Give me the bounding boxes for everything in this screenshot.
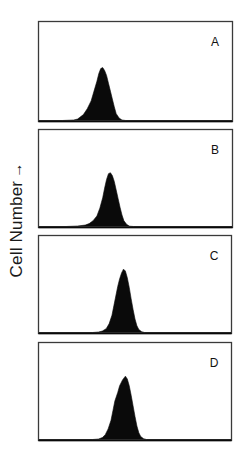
panel-label-a: A bbox=[211, 35, 219, 49]
panel-label-b: B bbox=[211, 143, 219, 157]
histogram-figure: Cell Number→ ABCD bbox=[0, 0, 251, 453]
histogram-panel-c: C bbox=[39, 236, 232, 334]
histogram-panel-a: A bbox=[39, 22, 233, 122]
histogram-panel-b: B bbox=[39, 130, 233, 228]
panel-label-d: D bbox=[210, 356, 219, 370]
histogram-panel-d: D bbox=[39, 343, 232, 441]
panel-label-c: C bbox=[210, 249, 219, 263]
panel-frame bbox=[39, 130, 233, 228]
histogram-panels: ABCD bbox=[0, 0, 251, 453]
panel-frame bbox=[39, 22, 233, 122]
